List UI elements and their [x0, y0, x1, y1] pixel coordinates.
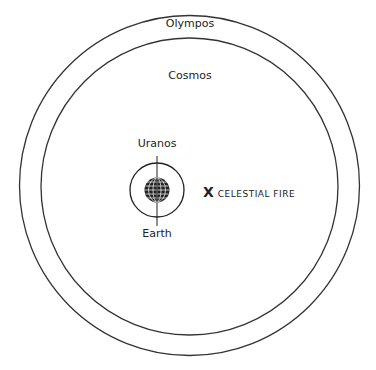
cosmos-label: Cosmos — [168, 69, 211, 82]
x-mark-icon: X — [203, 184, 214, 200]
olympos-outer-circle — [20, 16, 360, 356]
cosmology-diagram — [0, 0, 376, 370]
celestial-fire-label: CELESTIAL FIRE — [218, 189, 295, 199]
olympos-label: Olympos — [166, 17, 214, 30]
celestial-fire-marker: XCELESTIAL FIRE — [203, 182, 295, 201]
uranos-label: Uranos — [138, 137, 177, 150]
earth-label: Earth — [142, 227, 172, 240]
globe-icon — [145, 178, 170, 203]
